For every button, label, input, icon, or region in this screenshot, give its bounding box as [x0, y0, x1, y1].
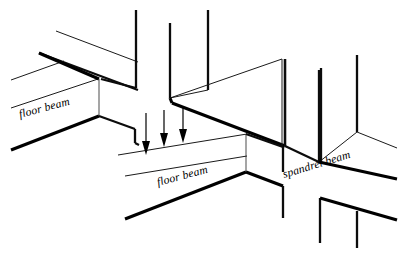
center-beam-left-web	[170, 98, 172, 103]
isometric-beam-diagram: floor beam floor beam spandrel beam	[0, 0, 407, 253]
diagram-background	[0, 0, 407, 253]
structural-diagram: floor beam floor beam spandrel beam	[0, 0, 407, 253]
